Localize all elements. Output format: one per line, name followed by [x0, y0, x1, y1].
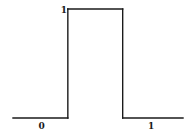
left-segment-label: 0 — [38, 121, 44, 131]
pulse-marks — [13, 9, 183, 118]
pulse-chart: 1 0 1 — [0, 0, 186, 135]
right-segment-label: 1 — [148, 121, 154, 131]
high-level-label: 1 — [61, 5, 67, 15]
